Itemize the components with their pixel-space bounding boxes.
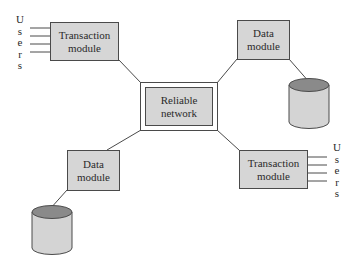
node-label: Transaction — [248, 157, 300, 170]
database-cylinder-top-right — [287, 76, 333, 132]
users-letter: e — [18, 37, 23, 49]
node-label: Transaction — [59, 29, 111, 42]
users-letter: U — [333, 142, 341, 154]
node-label: Reliable — [161, 94, 198, 107]
data-module-bottom-left: Data module — [67, 150, 120, 191]
users-label-left: U s e r s — [15, 14, 25, 72]
users-letter: s — [335, 188, 339, 200]
node-label: Data — [83, 158, 104, 171]
transaction-module-bottom-right: Transaction module — [239, 150, 308, 189]
node-label: module — [257, 170, 290, 183]
node-label: module — [247, 40, 280, 53]
transaction-module-top-left: Transaction module — [50, 22, 119, 61]
users-letter: e — [335, 165, 340, 177]
users-letter: s — [18, 60, 22, 72]
node-label: network — [161, 107, 197, 120]
node-label: module — [77, 171, 110, 184]
node-label: Data — [253, 27, 274, 40]
data-module-top-right: Data module — [237, 20, 290, 60]
node-label: module — [68, 42, 101, 55]
users-label-right: U s e r s — [332, 142, 342, 200]
users-letter: U — [16, 14, 24, 26]
database-cylinder-bottom-left — [30, 203, 76, 259]
reliable-network: Reliable network — [145, 87, 213, 126]
